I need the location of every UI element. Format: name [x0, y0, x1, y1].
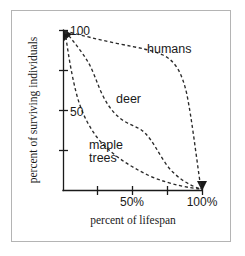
axis-titles-group: percent of surviving individuals percent… — [27, 36, 176, 227]
tick-labels-group: 100 50 50% 100% — [70, 24, 218, 209]
survivorship-curve-chart: 100 50 50% 100% humans deer maple trees … — [0, 0, 245, 256]
curve-label-maple-line1: maple — [89, 138, 123, 152]
curve-labels-group: humans deer maple trees — [89, 42, 191, 165]
x-axis-title: percent of lifespan — [90, 214, 176, 227]
curve-label-humans: humans — [147, 42, 191, 56]
y-tick-label-50: 50 — [70, 105, 84, 119]
x-tick-label-100: 100% — [187, 195, 218, 209]
x-tick-label-50: 50% — [120, 195, 144, 209]
y-axis-title: percent of surviving individuals — [27, 36, 40, 183]
endpoint-arrow-icon — [197, 181, 207, 191]
y-tick-label-100: 100 — [70, 24, 90, 38]
curve-label-deer: deer — [116, 92, 141, 106]
curve-label-maple-line2: trees — [89, 151, 117, 165]
